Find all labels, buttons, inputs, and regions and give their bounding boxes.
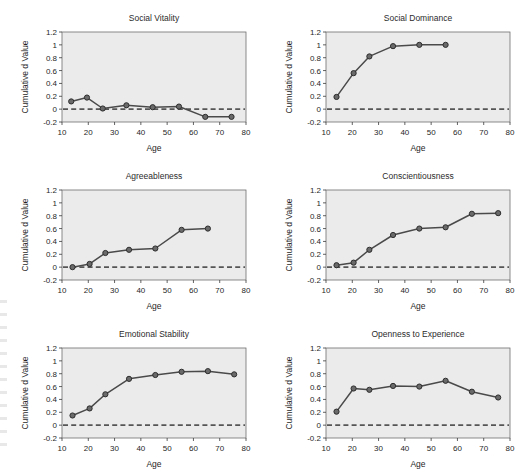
data-point-marker — [69, 99, 74, 104]
data-point-marker — [351, 260, 356, 265]
x-tick-label: 10 — [322, 128, 331, 137]
y-tick-label: 0.6 — [46, 225, 58, 234]
chart-panel-agreeableness: Agreeableness-0.200.20.40.60.811.2102030… — [0, 160, 264, 318]
y-tick-label: -0.2 — [307, 118, 321, 127]
x-tick-label: 30 — [110, 286, 119, 295]
y-tick-label: 0.4 — [46, 79, 58, 88]
y-tick-label: -0.2 — [307, 434, 321, 443]
y-axis-label: Cumulative d Value — [20, 356, 30, 429]
y-tick-label: 1 — [317, 199, 322, 208]
x-axis-label: Age — [410, 143, 425, 153]
x-tick-label: 80 — [506, 286, 515, 295]
data-point-marker — [205, 369, 210, 374]
data-point-marker — [351, 386, 356, 391]
data-point-marker — [103, 250, 108, 255]
x-tick-label: 80 — [242, 128, 251, 137]
data-point-marker — [367, 54, 372, 59]
data-point-marker — [124, 103, 129, 108]
y-tick-label: 1.2 — [46, 186, 58, 195]
data-point-marker — [417, 226, 422, 231]
y-tick-label: 0 — [317, 421, 322, 430]
x-tick-label: 40 — [400, 286, 409, 295]
y-tick-label: 0.6 — [310, 383, 322, 392]
data-point-marker — [70, 265, 75, 270]
y-tick-label: 0 — [53, 105, 58, 114]
y-tick-label: 0.8 — [46, 370, 58, 379]
x-tick-label: 10 — [58, 286, 67, 295]
x-tick-label: 40 — [136, 286, 145, 295]
x-tick-label: 10 — [58, 444, 67, 453]
x-axis-label: Age — [146, 459, 161, 469]
y-tick-label: 1.2 — [46, 344, 58, 353]
x-tick-label: 80 — [242, 286, 251, 295]
x-tick-label: 50 — [163, 286, 172, 295]
data-point-marker — [179, 369, 184, 374]
y-tick-label: 0.8 — [310, 54, 322, 63]
x-tick-label: 10 — [322, 444, 331, 453]
y-tick-label: -0.2 — [43, 118, 57, 127]
y-axis-label: Cumulative d Value — [20, 40, 30, 113]
x-tick-label: 30 — [110, 128, 119, 137]
x-tick-label: 60 — [189, 128, 198, 137]
y-tick-label: 1 — [53, 357, 58, 366]
x-tick-label: 20 — [84, 444, 93, 453]
y-tick-label: 0.2 — [46, 250, 58, 259]
x-tick-label: 10 — [322, 286, 331, 295]
panel-title: Agreeableness — [126, 171, 183, 181]
data-point-marker — [417, 384, 422, 389]
x-tick-label: 60 — [453, 286, 462, 295]
y-tick-label: 0.4 — [46, 395, 58, 404]
x-tick-label: 70 — [479, 444, 488, 453]
y-tick-label: -0.2 — [307, 276, 321, 285]
y-axis-label: Cumulative d Value — [284, 40, 294, 113]
x-tick-label: 70 — [479, 286, 488, 295]
y-axis-label: Cumulative d Value — [20, 198, 30, 271]
x-tick-label: 50 — [427, 444, 436, 453]
y-tick-label: 0.2 — [310, 408, 322, 417]
x-tick-label: 20 — [84, 128, 93, 137]
panel-title: Emotional Stability — [119, 329, 190, 339]
y-tick-label: 0.2 — [46, 408, 58, 417]
panel-title: Social Vitality — [129, 13, 180, 23]
x-tick-label: 20 — [348, 128, 357, 137]
x-tick-label: 30 — [374, 286, 383, 295]
data-point-marker — [87, 406, 92, 411]
y-tick-label: 1 — [317, 357, 322, 366]
trait-change-figure: Social Vitality-0.200.20.40.60.811.21020… — [0, 0, 528, 476]
x-tick-label: 20 — [348, 286, 357, 295]
y-tick-label: 0.8 — [46, 54, 58, 63]
chart-panel-emotional-stability: Emotional Stability-0.200.20.40.60.811.2… — [0, 318, 264, 476]
x-tick-label: 50 — [163, 444, 172, 453]
y-tick-label: 0.8 — [310, 370, 322, 379]
y-tick-label: 0.4 — [310, 237, 322, 246]
x-axis-label: Age — [410, 301, 425, 311]
data-point-marker — [417, 42, 422, 47]
x-tick-label: 40 — [136, 444, 145, 453]
y-axis-label: Cumulative d Value — [284, 356, 294, 429]
data-point-marker — [469, 211, 474, 216]
y-tick-label: 0.8 — [46, 212, 58, 221]
data-point-marker — [334, 94, 339, 99]
data-point-marker — [443, 225, 448, 230]
data-point-marker — [334, 263, 339, 268]
data-point-marker — [469, 389, 474, 394]
y-tick-label: 0.6 — [310, 225, 322, 234]
chart-panel-social-dominance: Social Dominance-0.200.20.40.60.811.2102… — [264, 0, 528, 160]
data-point-marker — [232, 372, 237, 377]
data-point-marker — [334, 409, 339, 414]
x-tick-label: 30 — [374, 128, 383, 137]
y-tick-label: 0.4 — [310, 395, 322, 404]
y-tick-label: -0.2 — [43, 434, 57, 443]
data-point-marker — [84, 95, 89, 100]
y-tick-label: 0.6 — [46, 67, 58, 76]
data-point-marker — [179, 227, 184, 232]
x-tick-label: 50 — [427, 286, 436, 295]
x-tick-label: 80 — [242, 444, 251, 453]
x-tick-label: 70 — [215, 286, 224, 295]
data-point-marker — [126, 247, 131, 252]
x-tick-label: 60 — [453, 444, 462, 453]
y-tick-label: 0.6 — [310, 67, 322, 76]
x-tick-label: 50 — [427, 128, 436, 137]
y-tick-label: 1 — [53, 41, 58, 50]
x-axis-label: Age — [146, 143, 161, 153]
